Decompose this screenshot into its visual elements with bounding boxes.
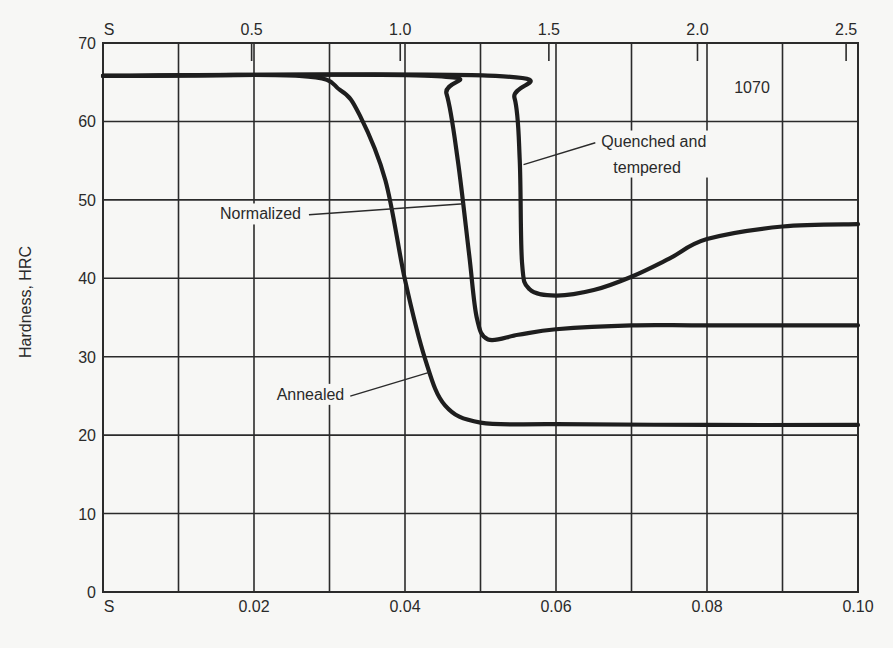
bottom-tick-label: 0.02 [238,598,269,615]
bottom-tick-label: 0.04 [389,598,420,615]
y-tick-label: 20 [78,427,96,444]
hardness-chart: S0.51.01.52.02.5S0.020.040.060.080.10010… [0,0,893,648]
y-tick-label: 40 [78,270,96,287]
y-tick-label: 70 [78,35,96,52]
annotation-quenched-line1: Quenched and [601,133,706,150]
y-tick-label: 0 [87,584,96,601]
top-tick-label: 2.5 [835,21,857,38]
bottom-tick-label: 0.08 [691,598,722,615]
y-tick-label: 60 [78,113,96,130]
bottom-tick-label: 0.06 [540,598,571,615]
annotation-annealed: Annealed [277,386,345,403]
annotation-quenched-line2: tempered [613,159,681,176]
bottom-tick-label: 0.10 [842,598,873,615]
annotation-normalized: Normalized [220,205,301,222]
top-tick-label: 1.5 [538,21,560,38]
top-tick-label: S [104,21,115,38]
bottom-tick-label: S [104,598,115,615]
grade-label: 1070 [734,79,770,96]
top-tick-label: 2.0 [686,21,708,38]
top-tick-label: 1.0 [389,21,411,38]
y-tick-label: 50 [78,192,96,209]
top-tick-label: 0.5 [240,21,262,38]
y-axis-label: Hardness, HRC [17,246,34,358]
y-tick-label: 30 [78,349,96,366]
y-tick-label: 10 [78,506,96,523]
